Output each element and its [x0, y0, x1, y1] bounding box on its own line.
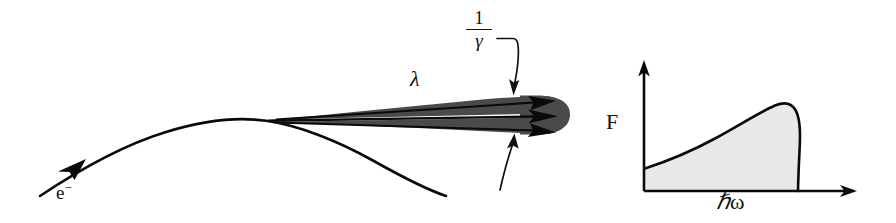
- opening-angle-arrowhead-top: [509, 79, 519, 96]
- spectrum-curve-fill: [645, 103, 800, 191]
- plot-x-axis-label-omega: ω: [730, 189, 744, 214]
- radiation-cone: [262, 96, 570, 135]
- opening-angle-label: 1 γ: [462, 9, 496, 51]
- figure-canvas: [0, 0, 896, 223]
- spectrum-plot: [638, 60, 857, 197]
- opening-angle-leader-top: [497, 39, 518, 85]
- opening-angle-numerator: 1: [462, 9, 496, 28]
- opening-angle-leader-bottom: [500, 145, 512, 190]
- plot-y-axis-label: F: [606, 111, 618, 133]
- wavelength-label: λ: [410, 68, 420, 90]
- plot-x-axis-label-hbar: ℏ: [716, 189, 730, 214]
- plot-x-axis-label: ℏω: [716, 191, 744, 213]
- electron-trajectory-path: [40, 119, 446, 196]
- synchrotron-radiation-figure: e− λ 1 γ F ℏω: [0, 0, 896, 223]
- electron-trajectory: [40, 119, 446, 196]
- opening-angle-denominator: γ: [462, 31, 496, 51]
- electron-label: e−: [56, 181, 72, 202]
- electron-charge-superscript: −: [64, 180, 71, 195]
